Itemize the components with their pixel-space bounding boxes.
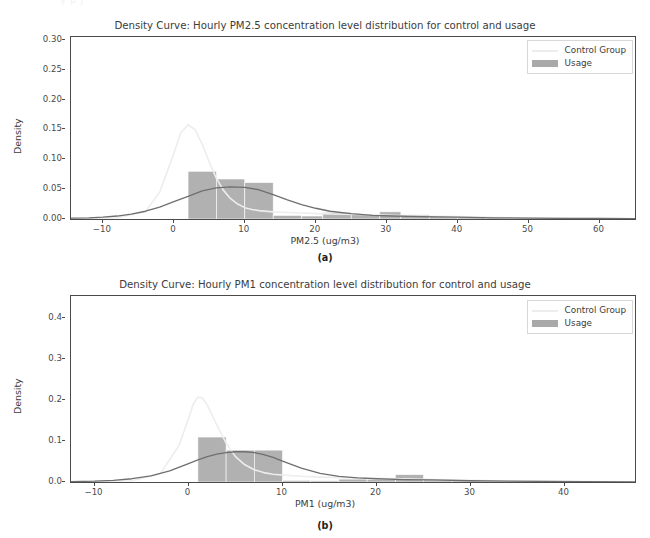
- legend-line-swatch-icon: [532, 50, 558, 52]
- x-tick-mark: [173, 220, 174, 223]
- y-tick-mark: [62, 481, 65, 482]
- histogram-bar: [302, 216, 323, 219]
- density-curve: [71, 187, 635, 219]
- y-axis-ticks-b: 0.00.10.20.30.4: [22, 295, 62, 481]
- histogram-bar: [254, 450, 282, 482]
- legend-bar-swatch-icon: [532, 320, 558, 327]
- subfigure-caption-b: (b): [0, 520, 650, 531]
- cropped-text-remnant: y p j: [60, 0, 84, 5]
- legend-b: Control Group Usage: [527, 300, 633, 334]
- histogram-bar: [339, 479, 367, 482]
- subfigure-caption-a: (a): [0, 252, 650, 263]
- histogram-bar: [311, 481, 339, 482]
- x-tick-label: −10: [84, 487, 102, 497]
- y-tick-label: 0.15: [43, 123, 62, 133]
- histogram-bar: [226, 450, 254, 482]
- y-tick-mark: [62, 69, 65, 70]
- x-tick-label: 20: [309, 224, 320, 234]
- legend-a: Control Group Usage: [527, 40, 633, 74]
- y-axis-ticks-a: 0.000.050.100.150.200.250.30: [22, 36, 62, 218]
- legend-item-usage-a[interactable]: Usage: [532, 57, 626, 70]
- y-tick-label: 0.0: [48, 476, 62, 486]
- y-tick-label: 0.10: [43, 153, 62, 163]
- x-tick-label: 10: [276, 487, 287, 497]
- y-tick-mark: [62, 399, 65, 400]
- x-tick-label: 60: [593, 224, 604, 234]
- y-tick-mark: [62, 158, 65, 159]
- y-tick-mark: [62, 358, 65, 359]
- x-tick-label: 40: [451, 224, 462, 234]
- legend-label-control-a: Control Group: [565, 46, 626, 55]
- y-tick-mark: [62, 188, 65, 189]
- y-tick-mark: [62, 317, 65, 318]
- density-curve: [71, 397, 635, 482]
- x-tick-label: 30: [380, 224, 391, 234]
- x-tick-label: 0: [185, 487, 190, 497]
- y-tick-label: 0.25: [43, 64, 62, 74]
- legend-label-control-b: Control Group: [565, 306, 626, 315]
- y-tick-mark: [62, 39, 65, 40]
- x-tick-label: 30: [464, 487, 475, 497]
- x-tick-mark: [599, 220, 600, 223]
- x-tick-mark: [94, 483, 95, 486]
- legend-item-usage-b[interactable]: Usage: [532, 317, 626, 330]
- figure-a: Density Curve: Hourly PM2.5 concentratio…: [0, 14, 650, 268]
- y-tick-mark: [62, 128, 65, 129]
- x-tick-mark: [376, 483, 377, 486]
- x-tick-mark: [188, 483, 189, 486]
- figure-page: y p j Density Curve: Hourly PM2.5 concen…: [0, 0, 650, 538]
- x-tick-mark: [315, 220, 316, 223]
- y-tick-label: 0.30: [43, 34, 62, 44]
- x-tick-label: 50: [522, 224, 533, 234]
- density-curve: [71, 452, 635, 482]
- x-tick-mark: [564, 483, 565, 486]
- x-tick-label: 10: [238, 224, 249, 234]
- x-axis-ticks-a: −100102030405060: [70, 220, 634, 234]
- legend-line-swatch-icon: [532, 310, 558, 312]
- x-tick-mark: [457, 220, 458, 223]
- y-tick-label: 0.1: [48, 435, 62, 445]
- chart-title-b: Density Curve: Hourly PM1 concentration …: [0, 279, 650, 290]
- y-tick-mark: [62, 99, 65, 100]
- histogram-bar: [283, 480, 311, 482]
- legend-item-control-b[interactable]: Control Group: [532, 304, 626, 317]
- x-tick-mark: [244, 220, 245, 223]
- y-tick-label: 0.2: [48, 394, 62, 404]
- histogram-bar: [273, 215, 301, 219]
- x-tick-mark: [282, 483, 283, 486]
- x-tick-label: 20: [370, 487, 381, 497]
- x-axis-label-a: PM2.5 (ug/m3): [0, 235, 650, 246]
- histogram-bar: [367, 480, 395, 482]
- y-tick-label: 0.4: [48, 312, 62, 322]
- x-tick-label: 40: [558, 487, 569, 497]
- x-tick-mark: [386, 220, 387, 223]
- figure-b: Density Curve: Hourly PM1 concentration …: [0, 274, 650, 538]
- x-tick-label: 0: [170, 224, 175, 234]
- legend-item-control-a[interactable]: Control Group: [532, 44, 626, 57]
- legend-label-usage-b: Usage: [565, 319, 592, 328]
- x-axis-ticks-b: −10010203040: [70, 483, 634, 497]
- y-tick-label: 0.3: [48, 353, 62, 363]
- histogram-bar: [198, 437, 226, 482]
- x-axis-label-b: PM1 (ug/m3): [0, 498, 650, 509]
- y-tick-label: 0.05: [43, 183, 62, 193]
- x-tick-mark: [470, 483, 471, 486]
- chart-title-a: Density Curve: Hourly PM2.5 concentratio…: [0, 20, 650, 31]
- x-tick-label: −10: [93, 224, 111, 234]
- density-curve: [71, 125, 635, 219]
- y-tick-mark: [62, 218, 65, 219]
- y-tick-label: 0.00: [43, 213, 62, 223]
- y-tick-label: 0.20: [43, 94, 62, 104]
- x-tick-mark: [102, 220, 103, 223]
- legend-bar-swatch-icon: [532, 60, 558, 67]
- y-tick-mark: [62, 440, 65, 441]
- legend-label-usage-a: Usage: [565, 59, 592, 68]
- x-tick-mark: [528, 220, 529, 223]
